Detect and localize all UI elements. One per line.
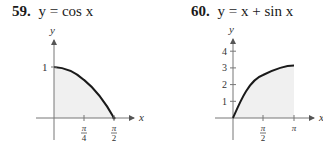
- shaded-region: [54, 67, 114, 118]
- y-tick-2: 2: [222, 79, 227, 90]
- y-tick-1: 1: [222, 96, 227, 107]
- graphs-canvas: y x 1 π 4 π 2 y x 1 2 3 4 π 2: [0, 0, 323, 157]
- x-axis-label: x: [138, 111, 144, 123]
- x-tick-pi2-num: π: [112, 123, 117, 133]
- y-tick-1: 1: [42, 61, 48, 73]
- y-axis-label: y: [49, 24, 55, 36]
- x-tick-pi2-den: 2: [261, 133, 266, 143]
- x-tick-pi2-num: π: [261, 123, 266, 133]
- y-tick-3: 3: [222, 62, 227, 73]
- y-axis-label: y: [228, 23, 234, 35]
- x-tick-pi4-den: 4: [82, 133, 87, 143]
- graph-60: y x 1 2 3 4 π 2 π: [215, 23, 323, 143]
- x-axis-label: x: [318, 111, 323, 123]
- shaded-region: [233, 66, 294, 119]
- y-tick-4: 4: [222, 46, 227, 57]
- graph-59: y x 1 π 4 π 2: [36, 24, 144, 143]
- x-tick-pi4-num: π: [82, 123, 87, 133]
- x-tick-pi2-den: 2: [112, 133, 117, 143]
- x-tick-pi: π: [292, 123, 297, 133]
